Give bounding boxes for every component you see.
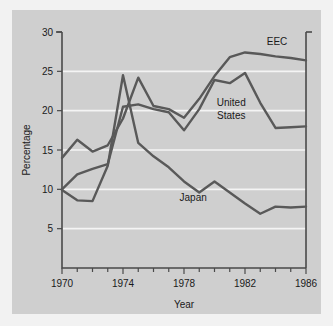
x-tick-labels-group: 19701974197819821986 [51, 278, 318, 289]
series-label-eec: EEC [267, 36, 288, 47]
y-tick-labels-group: 51015202530 [42, 27, 54, 235]
series-label-united-states: UnitedStates [217, 97, 246, 121]
y-tick-label: 20 [42, 105, 54, 116]
series-label-japan: Japan [180, 192, 207, 203]
x-tick-label: 1978 [173, 278, 196, 289]
series-line-united-states [62, 73, 306, 189]
x-tick-label: 1982 [234, 278, 257, 289]
y-axis-title: Percentage [21, 124, 32, 176]
y-tick-label: 15 [42, 145, 54, 156]
chart-figure: 51015202530 19701974197819821986 EECUnit… [12, 10, 321, 314]
x-axis-title: Year [174, 299, 195, 310]
y-tick-label: 25 [42, 66, 54, 77]
x-tick-label: 1974 [112, 278, 135, 289]
series-line-eec [62, 52, 306, 157]
x-tick-label: 1986 [295, 278, 318, 289]
x-tick-label: 1970 [51, 278, 74, 289]
y-tick-label: 30 [42, 27, 54, 38]
y-tick-label: 5 [47, 223, 53, 234]
line-chart: 51015202530 19701974197819821986 EECUnit… [12, 10, 321, 314]
y-tick-label: 10 [42, 184, 54, 195]
tick-marks-group [57, 32, 306, 274]
